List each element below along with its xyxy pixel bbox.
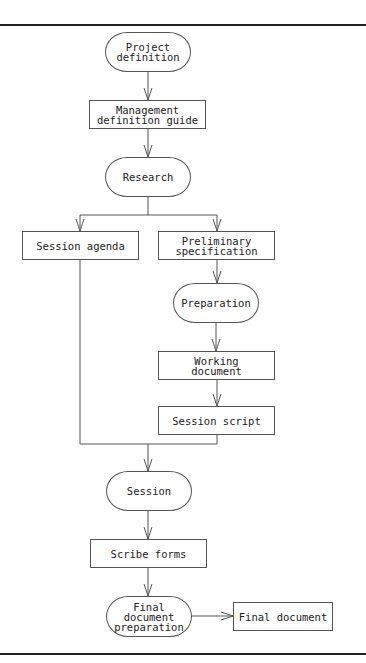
node-management-definition-guide: Management definition guide xyxy=(89,100,206,129)
node-label: Scribe forms xyxy=(111,549,187,559)
node-label: Research xyxy=(123,172,174,182)
node-session-agenda: Session agenda xyxy=(22,231,139,260)
node-label: Preparation xyxy=(181,298,251,308)
node-research: Research xyxy=(105,157,191,197)
node-label: Final document xyxy=(239,612,328,622)
node-label: Preliminary specification xyxy=(175,236,257,256)
node-working-document: Working document xyxy=(158,351,275,380)
node-session-script: Session script xyxy=(158,406,275,435)
node-session: Session xyxy=(106,471,192,511)
node-label: Session script xyxy=(172,416,261,426)
node-label: Final document preparation xyxy=(114,602,184,632)
node-preparation: Preparation xyxy=(173,283,259,323)
node-project-definition: Project definition xyxy=(105,32,191,72)
node-final-document-preparation: Final document preparation xyxy=(106,596,192,637)
node-scribe-forms: Scribe forms xyxy=(90,539,207,568)
node-label: Working document xyxy=(191,356,242,376)
node-label: Session xyxy=(127,486,171,496)
node-label: Management definition guide xyxy=(97,105,198,125)
node-label: Session agenda xyxy=(36,241,125,251)
node-final-document: Final document xyxy=(233,602,333,631)
node-label: Project definition xyxy=(116,42,179,62)
node-preliminary-specification: Preliminary specification xyxy=(158,231,275,260)
